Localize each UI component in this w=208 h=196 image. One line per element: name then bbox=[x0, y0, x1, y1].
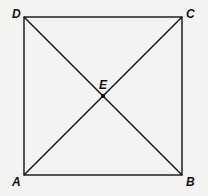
label-c: C bbox=[186, 7, 195, 21]
label-e: E bbox=[99, 78, 108, 92]
label-b: B bbox=[186, 175, 195, 189]
square-diagram: D C A B E bbox=[0, 0, 208, 196]
point-e-marker bbox=[101, 94, 105, 98]
label-a: A bbox=[11, 175, 21, 189]
label-d: D bbox=[12, 7, 21, 21]
